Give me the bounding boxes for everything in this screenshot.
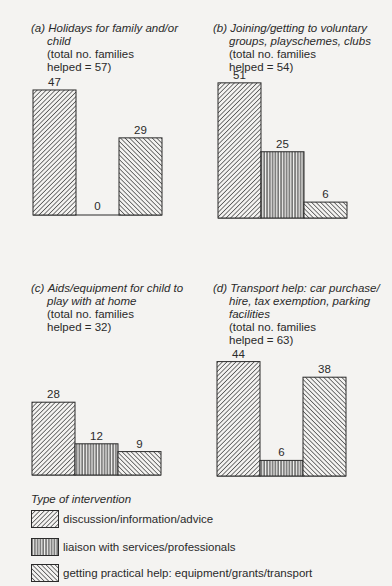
bar-value-label: 28 — [47, 388, 60, 400]
legend-label: discussion/information/advice — [63, 513, 213, 525]
bar-value-label: 12 — [90, 430, 103, 442]
bar — [75, 444, 118, 475]
back-diagonal-hatch-swatch-icon — [31, 564, 59, 582]
bar — [303, 377, 346, 476]
legend-item-practical-help: getting practical help: equipment/grants… — [31, 563, 312, 583]
vertical-hatch-swatch-icon — [31, 538, 59, 556]
bar-value-label: 38 — [318, 363, 331, 375]
legend-label: liaison with services/professionals — [63, 541, 236, 553]
bar — [218, 83, 261, 218]
bar-value-label: 0 — [94, 200, 100, 212]
bar — [32, 402, 75, 475]
bar-value-label: 51 — [233, 69, 246, 81]
bar-value-label: 6 — [278, 446, 284, 458]
bar-value-label: 29 — [134, 124, 147, 136]
bar-value-label: 6 — [322, 188, 328, 200]
legend-title: Type of intervention — [31, 493, 131, 505]
bar-value-label: 9 — [136, 438, 142, 450]
legend-label: getting practical help: equipment/grants… — [63, 567, 312, 579]
bar — [118, 452, 161, 475]
bar — [119, 138, 162, 215]
bar — [260, 460, 303, 476]
legend-item-liaison: liaison with services/professionals — [31, 537, 236, 557]
bar-value-label: 47 — [48, 76, 61, 88]
bar — [217, 362, 260, 476]
bar — [261, 152, 304, 218]
legend-item-discussion: discussion/information/advice — [31, 509, 213, 529]
bar-value-label: 25 — [276, 138, 289, 150]
diagonal-hatch-swatch-icon — [31, 510, 59, 528]
bar — [304, 202, 347, 218]
bar — [33, 90, 76, 215]
bar-value-label: 44 — [232, 348, 245, 360]
